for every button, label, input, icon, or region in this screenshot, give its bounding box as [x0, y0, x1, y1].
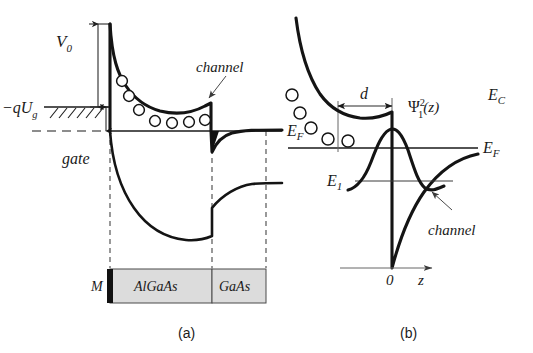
gate-hatching — [50, 108, 103, 118]
electron-circle — [322, 133, 334, 145]
fermi-label-b: EF — [482, 139, 500, 159]
channel-label-b: channel — [428, 222, 475, 238]
electron-circle — [124, 91, 135, 102]
layer-label-algaas: AlGaAs — [133, 279, 178, 294]
layer-stack: M AlGaAs GaAs — [90, 269, 266, 303]
electron-circle — [294, 107, 306, 119]
figure-canvas: V0 −qUg gate channel EF M AlGaAs GaAs (a… — [0, 0, 533, 353]
spacer-label: d — [360, 85, 369, 102]
electron-circle — [342, 135, 354, 147]
gate-label: gate — [62, 150, 90, 168]
conduction-band-curve-a — [110, 24, 282, 152]
subband-label: E1 — [326, 172, 342, 192]
valence-band-curve-a — [110, 131, 282, 240]
electron-circle — [286, 89, 298, 101]
band-diagram-figure: V0 −qUg gate channel EF M AlGaAs GaAs (a… — [0, 0, 533, 353]
channel-pointer-arrow-a — [209, 76, 226, 98]
electron-group-a — [117, 76, 211, 129]
electron-circle — [305, 122, 317, 134]
electron-circle — [150, 116, 161, 127]
gate-bias-label: −qUg — [2, 99, 38, 120]
layer-label-gaas: GaAs — [219, 279, 251, 294]
wavefunction-label: Ψ21(z) — [408, 97, 439, 120]
panel-b: d Ψ21(z) EC EF E1 channel 0 z (b) — [286, 18, 506, 341]
panel-a: V0 −qUg gate channel EF M AlGaAs GaAs (a… — [2, 24, 304, 341]
channel-label-a: channel — [196, 59, 243, 75]
layer-metal-bar — [107, 269, 113, 303]
caption-a: (a) — [178, 325, 195, 341]
channel-pointer-arrow-b — [432, 192, 452, 210]
origin-label: 0 — [386, 272, 394, 288]
electron-circle — [117, 76, 128, 87]
fermi-label-a: EF — [286, 122, 304, 142]
electron-circle — [184, 117, 195, 128]
v0-label: V0 — [56, 32, 72, 54]
electron-circle — [134, 105, 145, 116]
layer-label-metal: M — [90, 279, 104, 294]
conduction-band-label: EC — [487, 86, 506, 106]
z-axis-label: z — [417, 272, 424, 288]
caption-b: (b) — [400, 325, 417, 341]
electron-circle — [167, 118, 178, 129]
electron-circle — [200, 115, 211, 126]
